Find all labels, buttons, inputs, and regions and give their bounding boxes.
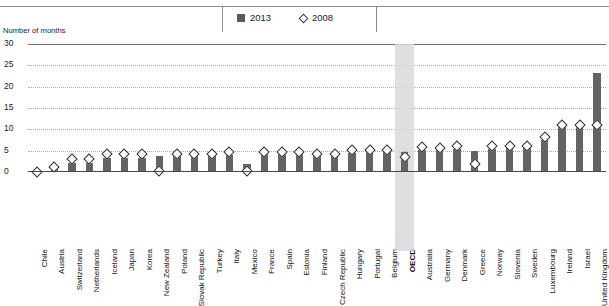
x-tick-label: Finland [320,249,329,275]
bar [576,125,584,172]
legend-square-icon [237,14,245,22]
x-tick-label: Australia [425,249,434,280]
x-tick-label: Korea [145,249,154,270]
x-tick-label: Japan [127,249,136,271]
legend-item-2013: 2013 [237,12,271,23]
x-tick-label: Israel [583,249,592,269]
x-tick-label: Netherlands [92,249,101,292]
y-tick-label: 10 [4,124,26,133]
bar [121,158,129,172]
x-tick-label: Hungary [355,249,364,279]
x-tick-label: Spain [285,249,294,269]
y-tick-label: 15 [4,103,26,112]
y-axis-title: Number of months [3,26,65,35]
y-tick-label: 30 [4,39,26,48]
bar [488,149,496,172]
bar [103,158,111,172]
x-tick-label: OECD [408,249,417,272]
bar [138,158,146,172]
x-tick-label: Ireland [565,249,574,273]
x-tick-label: United Kingdom [600,249,609,306]
x-tick-label: Switzerland [75,249,84,290]
x-tick-label: Iceland [110,249,119,275]
x-tick-label: Mexico [250,249,259,274]
legend-box: 2013 2008 [222,7,377,32]
bar [348,153,356,172]
bar [541,140,549,172]
bar [226,155,234,172]
legend-diamond-icon [299,14,307,22]
y-tick-label: 5 [4,146,26,155]
x-tick-label: France [267,249,276,274]
bar [418,150,426,172]
chart-legend: 2013 2008 [0,7,609,32]
x-tick-label: Estonia [302,249,311,276]
highlight-band-labels [395,172,415,251]
x-tick-label: Czech Republic [338,249,347,305]
x-tick-label: Austria [57,249,66,274]
y-tick-label: 20 [4,82,26,91]
bar [558,126,566,173]
y-tick-label: 0 [4,167,26,176]
bar [453,149,461,172]
x-tick-label: Belgium [390,249,399,278]
x-tick-label: Sweden [530,249,539,278]
x-tick-label: New Zealand [162,249,171,296]
x-tick-label: Greece [478,249,487,275]
plot-area [28,44,606,172]
x-tick-label: Slovenia [513,249,522,280]
x-axis-baseline [28,171,606,172]
x-tick-label: Denmark [460,249,469,281]
gridline [28,65,606,66]
x-tick-label: Poland [180,249,189,274]
gridline [28,87,606,88]
legend-item-2008: 2008 [299,12,333,23]
x-tick-label: Slovak Republic [197,249,206,306]
x-axis-category-labels: ChileAustriaSwitzerlandNetherlandsIcelan… [28,173,606,251]
x-tick-label: Luxembourg [548,249,557,293]
x-tick-label: Germany [443,249,452,282]
x-tick-label: Italy [232,249,241,264]
legend-label-2008: 2008 [312,12,333,23]
plot-top-rule [28,44,606,45]
x-tick-label: Chile [40,249,49,267]
x-tick-label: Norway [495,249,504,276]
x-tick-label: Portugal [373,249,382,279]
gridline [28,108,606,109]
gridline [28,129,606,130]
y-tick-label: 25 [4,60,26,69]
legend-label-2013: 2013 [250,12,271,23]
x-tick-label: Turkey [215,249,224,273]
